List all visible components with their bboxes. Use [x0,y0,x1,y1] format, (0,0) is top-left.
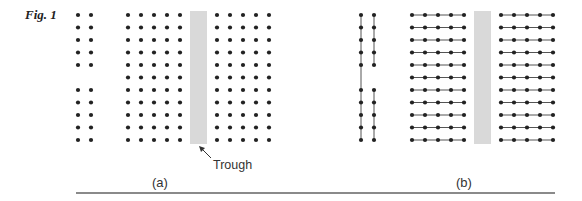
trough [190,11,207,144]
bottom-rule [76,192,555,194]
trough-annotation: Trough [213,158,252,172]
trough [474,11,491,144]
figure-diagram [0,0,582,201]
panel-a-caption: (a) [152,175,168,190]
panel-b-caption: (b) [456,175,472,190]
